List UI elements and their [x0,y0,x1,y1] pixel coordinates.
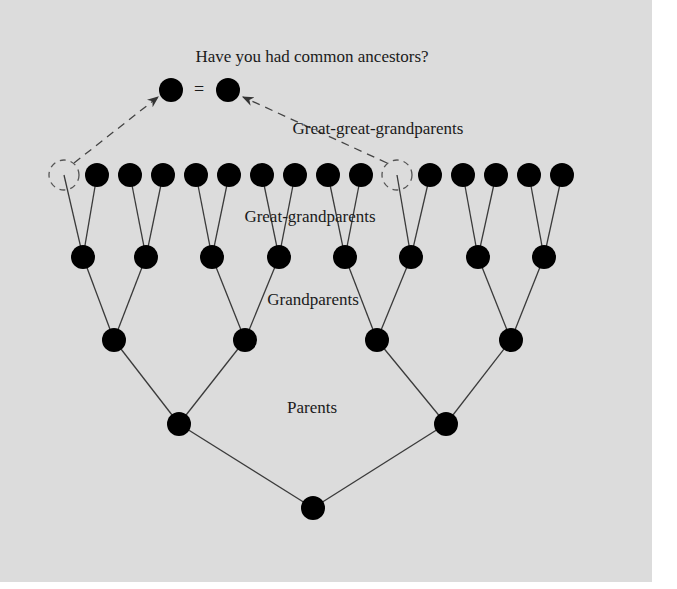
great-grandparent-node [134,245,158,269]
tree-edge [114,257,146,340]
label-great-great-grandparents: Great-great-grandparents [293,119,464,138]
great-grandparent-node [333,245,357,269]
great-great-grandparent-node [418,163,442,187]
tree-edge [179,424,313,508]
tree-edge [313,424,446,508]
family-tree-diagram: Have you had common ancestors? = Great-g… [0,0,677,589]
tree-edge [130,175,146,257]
grandparent-node [102,328,126,352]
great-grandparent-node [200,245,224,269]
equals-sign: = [194,79,204,99]
tree-edge [511,257,544,340]
tree-edge [83,257,114,340]
tree-edge [377,340,446,424]
grandparent-node [499,328,523,352]
tree-edge [397,175,411,257]
great-grandparent-node [267,245,291,269]
common-ancestor-node [216,78,240,102]
tree-edge [411,175,430,257]
great-grandparent-node [532,245,556,269]
tree-edge [179,340,245,424]
label-grandparents: Grandparents [267,290,359,309]
tree-edge [196,175,212,257]
great-great-grandparent-node [184,163,208,187]
tree-edge [212,175,229,257]
common-ancestor-node [159,78,183,102]
great-great-grandparent-node [118,163,142,187]
diagram-title: Have you had common ancestors? [195,47,428,66]
great-great-grandparent-node [550,163,574,187]
great-great-grandparent-node [283,163,307,187]
grandparent-node [365,328,389,352]
great-great-grandparent-node [349,163,373,187]
tree-edge [478,175,496,257]
tree-edge [114,340,179,424]
tree-edge [529,175,544,257]
great-great-grandparent-node [484,163,508,187]
tree-edge [377,257,411,340]
great-grandparent-node [71,245,95,269]
label-parents: Parents [287,398,337,417]
tree-edge [478,257,511,340]
great-great-grandparent-node [316,163,340,187]
great-great-grandparent-node [217,163,241,187]
great-great-grandparent-node [451,163,475,187]
dashed-arrow [74,97,158,163]
label-great-grandparents: Great-grandparents [244,207,375,226]
parent-node [167,412,191,436]
self-node [301,496,325,520]
tree-edge [463,175,478,257]
great-great-grandparent-node [151,163,175,187]
tree-edge [212,257,245,340]
great-grandparent-node [399,245,423,269]
great-great-grandparent-node [517,163,541,187]
great-great-grandparent-node [250,163,274,187]
great-great-grandparent-node [85,163,109,187]
tree-edge [146,175,163,257]
tree-edge [544,175,562,257]
parent-node [434,412,458,436]
tree-edge [83,175,97,257]
grandparent-node [233,328,257,352]
tree-edge [446,340,511,424]
great-grandparent-node [466,245,490,269]
